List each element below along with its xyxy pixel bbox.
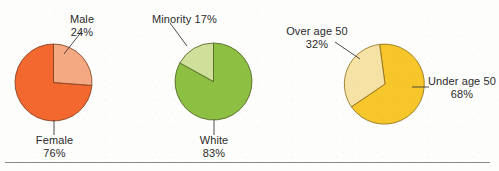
pie-race-svg (175, 43, 252, 120)
bottom-rule (5, 162, 490, 163)
figure-canvas: Male 24% Female 76% Minority 17% White 8… (0, 0, 499, 171)
label-white: White 83% (178, 134, 250, 160)
label-male: Male 24% (57, 13, 107, 39)
label-under-age-50: Under age 50 68% (426, 75, 498, 101)
label-over-age-50: Over age 50 32% (277, 25, 357, 51)
label-female: Female 76% (17, 134, 92, 160)
pie-chart-race (175, 43, 252, 120)
label-minority: Minority 17% (152, 13, 262, 26)
